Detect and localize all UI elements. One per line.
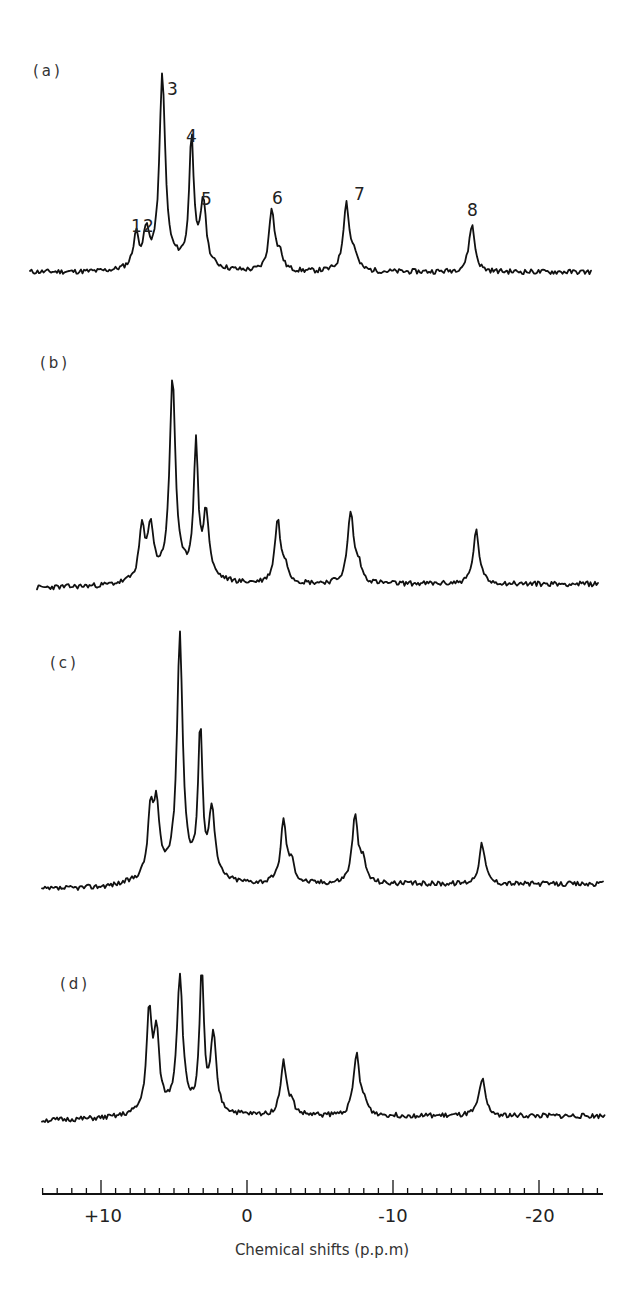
peak-label-3: 3 xyxy=(167,79,178,99)
panel-label-a: (a) xyxy=(33,62,63,80)
tick-label-minus20: -20 xyxy=(525,1205,554,1226)
spectrum-trace-a xyxy=(30,73,591,274)
panel-label-c: (c) xyxy=(50,654,79,672)
panel-label-d: (d) xyxy=(60,975,90,993)
peak-label-8: 8 xyxy=(467,200,478,220)
panel-label-b: (b) xyxy=(40,354,70,372)
peak-label-2: 2 xyxy=(143,216,154,236)
tick-label-plus10: +10 xyxy=(84,1205,122,1226)
spectrum-trace-c xyxy=(42,631,603,890)
peak-label-7: 7 xyxy=(354,184,365,204)
tick-label-minus10: -10 xyxy=(378,1205,407,1226)
spectrum-trace-d xyxy=(42,974,605,1123)
axis-title: Chemical shifts (p.p.m) xyxy=(235,1241,409,1259)
peak-label-4: 4 xyxy=(186,126,197,146)
peak-label-5: 5 xyxy=(201,189,212,209)
peak-label-1: 1 xyxy=(131,216,142,236)
spectrum-panel-c: (c) xyxy=(42,631,603,890)
nmr-spectra-figure: (a) 1 2 3 4 5 6 7 8 (b) (c) (d) +10 0 -1… xyxy=(0,0,640,1297)
spectrum-panel-a: (a) 1 2 3 4 5 6 7 8 xyxy=(30,62,591,274)
spectrum-panel-b: (b) xyxy=(37,354,598,589)
spectrum-trace-b xyxy=(37,380,598,589)
tick-label-0: 0 xyxy=(241,1205,252,1226)
caption-fragment xyxy=(0,1286,640,1297)
spectrum-panel-d: (d) xyxy=(42,974,605,1123)
axis-ticks xyxy=(43,1180,598,1194)
chemical-shift-axis: +10 0 -10 -20 Chemical shifts (p.p.m) xyxy=(42,1180,603,1259)
peak-label-6: 6 xyxy=(272,188,283,208)
